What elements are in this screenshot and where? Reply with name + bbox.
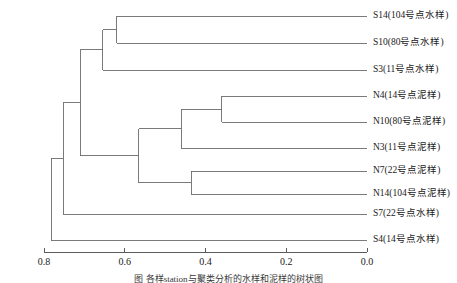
leaf-label-s7: S7(22号点水样) [373,209,439,219]
leaf-label-n7: N7(22号点泥样) [373,166,440,176]
axis-tick-0-4: 0.4 [186,257,226,267]
axis-tick-0-8: 0.8 [24,257,64,267]
leaf-label-n3: N3(11号点泥样) [373,143,440,153]
leaf-label-s3: S3(11号点水样) [373,65,439,75]
figure-caption: 图 各样station与聚类分析的水样和泥样的树状图 [0,272,457,283]
leaf-label-n10: N10(80号点泥样) [373,117,445,127]
leaf-label-s10: S10(80号点水样) [373,38,444,48]
tree-lines [51,16,367,240]
dendrogram-figure: S14(104号点水样)S10(80号点水样)S3(11号点水样)N4(14号点… [0,0,457,283]
leaf-label-s14: S14(104号点水样) [373,11,448,21]
axis-tick-0-2: 0.2 [266,257,306,267]
axis-tick-0-0: 0.0 [347,257,387,267]
leaf-label-s4: S4(14号点水样) [373,235,439,245]
axis-tick-0-6: 0.6 [105,257,145,267]
leaf-label-n14: N14(104号点泥样) [373,189,450,199]
leaf-label-n4: N4(14号点泥样) [373,91,440,101]
x-axis [44,248,367,252]
